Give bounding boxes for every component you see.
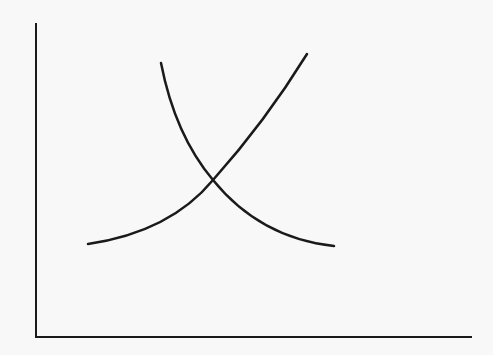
diagram xyxy=(0,0,493,355)
decreasing-curve xyxy=(161,63,334,246)
increasing-curve xyxy=(88,54,307,244)
chart-svg xyxy=(0,0,493,355)
